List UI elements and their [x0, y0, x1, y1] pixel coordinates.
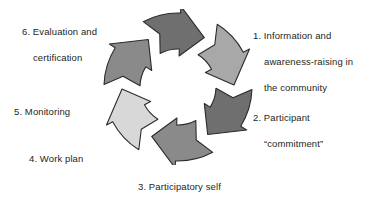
step-label-1-line-1: 1. Information and	[253, 29, 373, 42]
step-label-1-line-2: awareness-raising in	[253, 55, 373, 68]
step-label-2-line-1: 2. Participant	[253, 111, 371, 124]
step-label-2: 2. Participant “commitment”	[253, 98, 371, 163]
cycle-arrow-lower-right	[204, 88, 252, 134]
cycle-arrow-top	[143, 9, 204, 56]
step-label-3-line-1: 3. Participatory self	[138, 180, 263, 193]
cycle-arrow-bottom	[152, 118, 213, 165]
step-label-1: 1. Information and awareness-raising in …	[253, 16, 373, 107]
cycle-ring-svg	[100, 9, 256, 165]
step-label-5: 5. Monitoring	[14, 92, 114, 131]
cycle-arrow-upper-right	[198, 24, 249, 85]
cycle-arrow-lower-left	[106, 89, 157, 150]
step-label-3: 3. Participatory self diagnosis	[138, 167, 263, 202]
diagram-canvas: 6. Evaluation and certification 1. Infor…	[0, 0, 375, 202]
step-label-1-line-3: the community	[253, 81, 373, 94]
cycle-ring	[100, 9, 256, 165]
step-label-5-line-1: 5. Monitoring	[14, 105, 114, 118]
cycle-arrow-upper-left	[104, 40, 152, 86]
step-label-2-line-2: “commitment”	[253, 137, 371, 150]
